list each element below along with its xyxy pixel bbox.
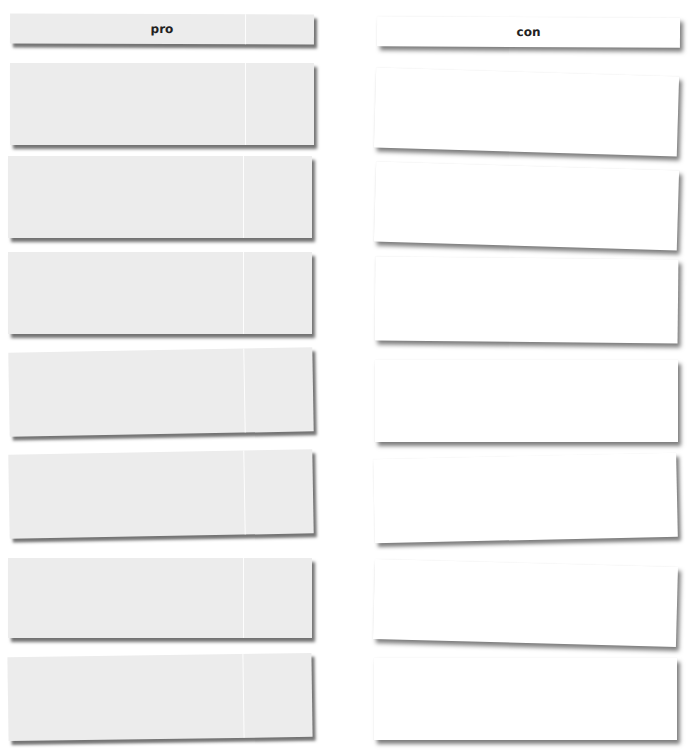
pro-card[interactable]	[8, 449, 313, 538]
pro-header: pro	[10, 13, 314, 44]
pro-card[interactable]	[8, 156, 312, 238]
con-card[interactable]	[375, 360, 678, 442]
con-card[interactable]	[375, 256, 679, 343]
con-card[interactable]	[374, 68, 679, 157]
con-card[interactable]	[373, 453, 678, 543]
pro-card[interactable]	[8, 252, 312, 334]
con-card[interactable]	[374, 658, 677, 740]
con-card[interactable]	[374, 162, 679, 251]
con-header: con	[377, 16, 680, 48]
con-card[interactable]	[373, 559, 678, 647]
pro-card[interactable]	[7, 653, 312, 741]
con-header-label: con	[517, 25, 541, 39]
pro-header-label: pro	[151, 22, 174, 36]
pro-card[interactable]	[8, 558, 312, 638]
pro-card[interactable]	[8, 347, 313, 436]
pro-card[interactable]	[10, 63, 314, 145]
